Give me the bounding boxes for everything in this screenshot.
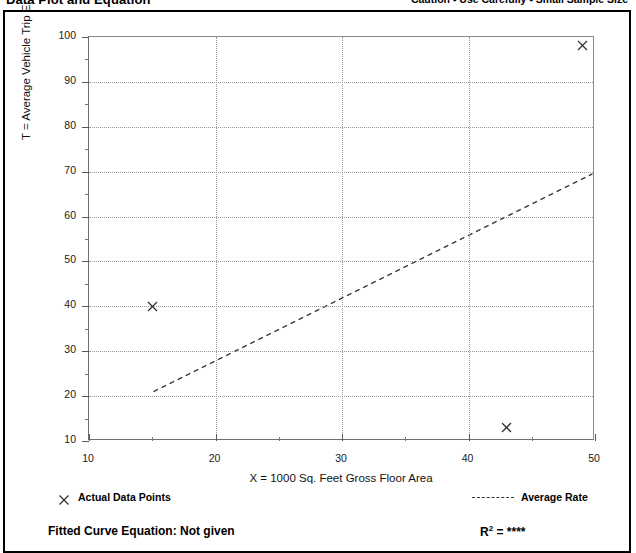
trend-line bbox=[154, 174, 593, 392]
r-squared-prefix: R bbox=[480, 525, 489, 539]
y-axis-minor-tick bbox=[85, 329, 89, 330]
y-axis-tick-label: 70 bbox=[64, 164, 76, 176]
x-axis-minor-tick bbox=[405, 437, 406, 441]
x-axis-tick-label: 40 bbox=[443, 452, 493, 464]
y-axis-minor-tick bbox=[85, 59, 89, 60]
y-axis-tick-label: 90 bbox=[64, 74, 76, 86]
gridline-horizontal bbox=[89, 306, 593, 307]
r-squared-value: R2 = **** bbox=[480, 524, 526, 539]
y-axis-tick-label: 20 bbox=[64, 388, 76, 400]
y-axis-tick-label: 100 bbox=[58, 29, 76, 41]
legend-actual-data-points-label: Actual Data Points bbox=[78, 491, 171, 503]
x-axis-tick bbox=[469, 434, 470, 441]
x-marker-icon bbox=[58, 492, 70, 504]
y-axis-tick bbox=[82, 351, 89, 352]
x-axis-minor-tick bbox=[532, 437, 533, 441]
y-axis-tick bbox=[82, 306, 89, 307]
y-axis-minor-tick bbox=[85, 104, 89, 105]
y-axis-minor-tick bbox=[85, 419, 89, 420]
y-axis-tick-label: 30 bbox=[64, 343, 76, 355]
data-point-marker bbox=[147, 301, 158, 312]
x-axis-minor-tick bbox=[279, 437, 280, 441]
y-axis-title: T = Average Vehicle Trip Ends bbox=[20, 0, 32, 140]
gridline-horizontal bbox=[89, 396, 593, 397]
y-axis-minor-tick bbox=[85, 194, 89, 195]
gridline-vertical bbox=[469, 37, 470, 439]
x-axis-tick bbox=[342, 434, 343, 441]
gridline-vertical bbox=[342, 37, 343, 439]
y-axis-tick bbox=[82, 261, 89, 262]
y-axis-tick-label: 40 bbox=[64, 298, 76, 310]
gridline-horizontal bbox=[89, 172, 593, 173]
x-axis-tick bbox=[595, 434, 596, 441]
y-axis-tick bbox=[82, 82, 89, 83]
x-axis-tick bbox=[216, 434, 217, 441]
x-axis-tick bbox=[89, 434, 90, 441]
x-axis-tick-label: 30 bbox=[316, 452, 366, 464]
plot-area bbox=[88, 36, 594, 440]
data-point-marker bbox=[501, 422, 512, 433]
gridline-horizontal bbox=[89, 351, 593, 352]
gridline-horizontal bbox=[89, 261, 593, 262]
gridline-horizontal bbox=[89, 127, 593, 128]
gridline-vertical bbox=[216, 37, 217, 439]
r-squared-exponent: 2 bbox=[489, 524, 493, 533]
legend-row: Actual Data Points Average Rate bbox=[0, 492, 636, 512]
legend-average-rate-label: Average Rate bbox=[521, 491, 588, 503]
y-axis-minor-tick bbox=[85, 149, 89, 150]
x-axis-tick-label: 20 bbox=[190, 452, 240, 464]
x-axis-title: X = 1000 Sq. Feet Gross Floor Area bbox=[88, 472, 594, 484]
y-axis-tick-label: 50 bbox=[64, 253, 76, 265]
x-axis-tick-label: 10 bbox=[63, 452, 113, 464]
x-axis-tick-label: 50 bbox=[569, 452, 619, 464]
fitted-curve-equation: Fitted Curve Equation: Not given bbox=[48, 524, 235, 538]
y-axis-tick bbox=[82, 172, 89, 173]
r-squared-result: = **** bbox=[496, 525, 525, 539]
y-axis-tick-label: 60 bbox=[64, 209, 76, 221]
data-point-marker bbox=[577, 40, 588, 51]
y-axis-tick bbox=[82, 441, 89, 442]
y-axis-tick bbox=[82, 127, 89, 128]
gridline-horizontal bbox=[89, 217, 593, 218]
equation-row: Fitted Curve Equation: Not given R2 = **… bbox=[0, 524, 636, 546]
y-axis-minor-tick bbox=[85, 239, 89, 240]
y-axis-tick-label: 10 bbox=[64, 433, 76, 445]
x-axis-minor-tick bbox=[152, 437, 153, 441]
y-axis-tick-label: 80 bbox=[64, 119, 76, 131]
dashed-line-icon bbox=[472, 497, 514, 498]
y-axis-tick bbox=[82, 396, 89, 397]
y-axis-minor-tick bbox=[85, 374, 89, 375]
y-axis-tick bbox=[82, 217, 89, 218]
y-axis-tick bbox=[82, 37, 89, 38]
gridline-horizontal bbox=[89, 82, 593, 83]
y-axis-minor-tick bbox=[85, 284, 89, 285]
